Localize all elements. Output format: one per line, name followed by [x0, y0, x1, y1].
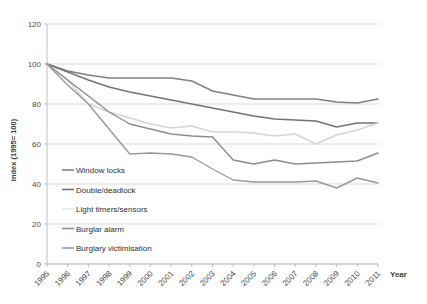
legend-label-0: Window locks [76, 166, 125, 175]
chart-background [0, 0, 427, 304]
y-tick-label-120: 120 [28, 20, 42, 29]
y-tick-label-100: 100 [28, 60, 42, 69]
y-axis-title: Index (1995= 100) [9, 118, 18, 181]
y-tick-label-20: 20 [32, 220, 41, 229]
line-chart: 020406080100120 199519961997199819992000… [0, 0, 427, 304]
y-tick-label-60: 60 [32, 140, 41, 149]
legend-label-3: Burglar alarm [76, 225, 124, 234]
legend-label-1: Double/deadlock [76, 186, 137, 195]
x-axis-title: Year [390, 270, 407, 279]
y-tick-label-80: 80 [32, 100, 41, 109]
legend-label-2: Light timers/sensors [76, 205, 148, 214]
legend-label-4: Burglary victimisation [76, 244, 152, 253]
y-tick-label-0: 0 [37, 260, 42, 269]
chart-canvas: 020406080100120 199519961997199819992000… [0, 0, 427, 304]
y-tick-label-40: 40 [32, 180, 41, 189]
